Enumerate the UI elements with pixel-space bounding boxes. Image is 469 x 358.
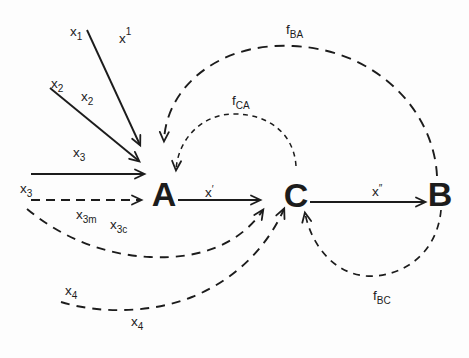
feedback-arc-c-to-a	[176, 114, 296, 170]
label-f-bc: fBC	[373, 288, 391, 306]
label-x-double-prime: x″	[372, 183, 383, 199]
label-x4-upper: x4	[65, 283, 78, 301]
label-f-ca: fCA	[232, 93, 250, 111]
node-c: C	[284, 176, 309, 214]
label-x-prime: x′	[205, 184, 214, 200]
feedback-arc-b-to-a	[164, 46, 437, 176]
label-x3c: x3c	[110, 217, 127, 235]
arrow-x1-to-a	[87, 30, 140, 145]
feedback-arc-b-to-c	[305, 210, 441, 276]
arrow-x2-to-a	[50, 88, 139, 161]
causal-flow-diagram: A C B x1 x1 x2 x2 x3 x3 x3m x3c x4 x4 x′…	[0, 0, 469, 358]
curve-x3c-to-c	[27, 209, 263, 257]
node-b: B	[428, 175, 453, 213]
label-x2-inner: x2	[81, 89, 94, 107]
label-x3m: x3m	[76, 207, 97, 225]
label-x1-superscript: x1	[119, 26, 132, 46]
label-f-ba: fBA	[286, 22, 303, 40]
diagram-canvas: A C B x1 x1 x2 x2 x3 x3 x3m x3c x4 x4 x′…	[0, 0, 469, 358]
label-x4-lower: x4	[131, 314, 144, 332]
label-x3-dashed: x3	[20, 181, 33, 199]
node-a: A	[152, 175, 177, 213]
label-x1: x1	[70, 24, 83, 42]
label-x2-outer: x2	[51, 76, 64, 94]
label-x3-solid: x3	[73, 145, 86, 163]
